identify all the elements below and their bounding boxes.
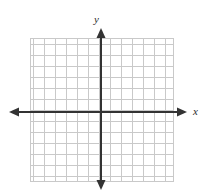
y-axis-label: y — [94, 14, 99, 25]
y-axis-arrow-top — [97, 28, 106, 38]
x-axis-arrow-right — [177, 108, 187, 117]
y-axis-arrow-bottom — [97, 180, 106, 190]
coordinate-plane-svg — [0, 0, 212, 195]
coordinate-grid-figure: y x — [0, 0, 212, 195]
x-axis-arrow-left — [9, 108, 19, 117]
x-axis-label: x — [193, 106, 198, 117]
